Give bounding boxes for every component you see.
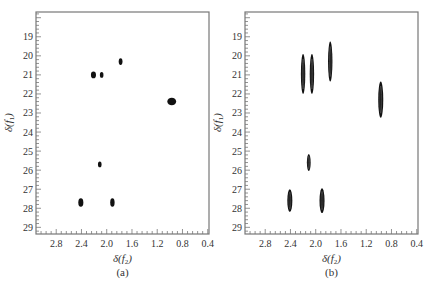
x-tick-label: 1.6 (335, 238, 348, 249)
y-tick-label: 28 (23, 203, 33, 214)
x-tick-label: 2.4 (284, 238, 297, 249)
x-tick-label: 0.4 (201, 238, 214, 249)
y-tick-label: 25 (232, 146, 242, 157)
cross-peak (328, 42, 332, 82)
cross-peak (100, 72, 104, 78)
cross-peak (98, 162, 102, 168)
cross-peak (301, 54, 305, 94)
x-axis-label: δ(f2) (322, 252, 341, 266)
cross-peak (78, 198, 83, 207)
y-tick-label: 26 (232, 165, 242, 176)
x-tick-label: 2.0 (100, 238, 113, 249)
y-tick-label: 25 (23, 146, 33, 157)
cross-peak (287, 189, 292, 212)
y-tick-label: 21 (23, 69, 33, 80)
cross-peak (378, 82, 383, 118)
y-tick-label: 23 (23, 107, 33, 118)
y-tick-label: 29 (232, 222, 242, 233)
cross-peak (310, 54, 314, 94)
y-tick-label: 27 (232, 184, 242, 195)
plot-frame (36, 12, 209, 234)
y-tick-label: 24 (23, 127, 33, 138)
y-tick-label: 24 (232, 127, 242, 138)
x-tick-label: 1.6 (126, 238, 139, 249)
cross-peak (320, 188, 325, 213)
y-tick-label: 28 (232, 203, 242, 214)
y-tick-label: 26 (23, 165, 33, 176)
cross-peak (307, 154, 311, 171)
cross-peak (167, 98, 176, 106)
y-tick-label: 22 (232, 88, 242, 99)
x-axis-label: δ(f2) (113, 252, 132, 266)
chart-panel-b: 19202122232425262728292.82.42.01.61.20.8… (211, 12, 423, 279)
x-tick-label: 0.4 (410, 238, 423, 249)
x-tick-label: 0.8 (385, 238, 398, 249)
y-tick-label: 21 (232, 69, 242, 80)
y-tick-label: 29 (23, 222, 33, 233)
y-axis-label: δ(f1) (2, 113, 16, 132)
y-axis-label: δ(f1) (211, 113, 225, 132)
x-tick-label: 1.2 (360, 238, 373, 249)
y-tick-label: 27 (23, 184, 33, 195)
chart-panel-a: 19202122232425262728292.82.42.01.61.20.8… (2, 12, 214, 279)
y-tick-label: 22 (23, 88, 33, 99)
x-tick-label: 1.2 (151, 238, 164, 249)
y-tick-label: 23 (232, 107, 242, 118)
x-tick-label: 2.4 (75, 238, 88, 249)
x-tick-label: 2.0 (309, 238, 322, 249)
x-tick-label: 2.8 (259, 238, 272, 249)
y-tick-label: 20 (23, 50, 33, 61)
cross-peak (119, 58, 123, 65)
panel-label: (a) (116, 266, 129, 279)
x-tick-label: 2.8 (50, 238, 63, 249)
cross-peak (110, 198, 114, 207)
nmr-spectra-figure: 19202122232425262728292.82.42.01.61.20.8… (0, 0, 433, 282)
y-tick-label: 19 (23, 31, 33, 42)
y-tick-label: 20 (232, 50, 242, 61)
cross-peak (91, 72, 96, 79)
panel-label: (b) (325, 266, 338, 279)
y-tick-label: 19 (232, 31, 242, 42)
x-tick-label: 0.8 (176, 238, 189, 249)
